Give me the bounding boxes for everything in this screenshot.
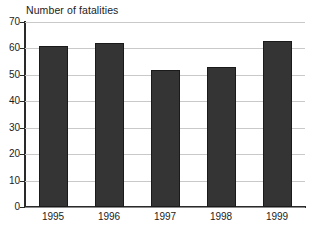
y-axis-label-40: 40 <box>0 96 20 106</box>
y-axis-label-10: 10 <box>0 176 20 186</box>
y-axis-label-60: 60 <box>0 43 20 53</box>
bar-1995 <box>39 46 68 207</box>
bar-1997 <box>151 70 180 207</box>
x-axis-label-1996: 1996 <box>81 211 137 223</box>
plot-area <box>25 22 305 207</box>
y-tick-20 <box>20 154 25 155</box>
bar-1999 <box>263 41 292 208</box>
y-tick-0 <box>20 207 25 208</box>
y-axis-label-70: 70 <box>0 17 20 27</box>
y-axis-label-0: 0 <box>0 202 20 212</box>
y-tick-10 <box>20 181 25 182</box>
y-tick-60 <box>20 48 25 49</box>
chart-title: Number of fatalities <box>26 4 118 17</box>
x-axis-tick-labels: 19951996199719981999 <box>25 211 305 227</box>
x-axis-label-1998: 1998 <box>193 211 249 223</box>
y-axis-label-30: 30 <box>0 123 20 133</box>
gridline-70 <box>25 22 305 23</box>
y-tick-30 <box>20 128 25 129</box>
gridline-0 <box>25 207 305 208</box>
y-axis-label-50: 50 <box>0 70 20 80</box>
y-tick-40 <box>20 101 25 102</box>
y-tick-50 <box>20 75 25 76</box>
x-axis-label-1999: 1999 <box>249 211 305 223</box>
bar-1998 <box>207 67 236 207</box>
y-tick-70 <box>20 22 25 23</box>
y-axis-tick-labels: 010203040506070 <box>0 0 20 241</box>
x-axis-label-1995: 1995 <box>25 211 81 223</box>
x-axis-label-1997: 1997 <box>137 211 193 223</box>
bar-1996 <box>95 43 124 207</box>
y-axis-label-20: 20 <box>0 149 20 159</box>
bar-chart: Number of fatalities 010203040506070 199… <box>0 0 313 241</box>
